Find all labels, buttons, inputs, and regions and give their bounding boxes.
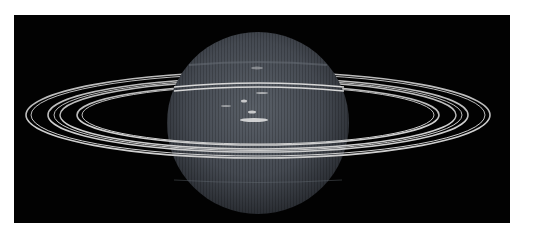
planet	[167, 32, 349, 214]
space-background	[14, 15, 510, 223]
planet-scene	[14, 15, 510, 223]
